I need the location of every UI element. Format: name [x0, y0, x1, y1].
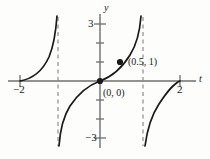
- plot-canvas: [0, 0, 210, 159]
- origin-point-label: (0, 0): [103, 88, 125, 98]
- x-tick-label-2: 2: [177, 84, 183, 95]
- origin-point-marker: [97, 78, 103, 84]
- curve-branch-right: [145, 81, 180, 146]
- y-tick-label-3: 3: [88, 18, 94, 29]
- half-one-point-label: (0.5, 1): [128, 57, 157, 67]
- x-axis-label: t: [199, 74, 202, 84]
- curve-branch-left: [20, 16, 57, 81]
- tangent-function-figure: y t 3 −3 −2 2 (0, 0) (0.5, 1): [0, 0, 210, 159]
- y-tick-label-neg3: −3: [85, 132, 97, 143]
- y-axis-label: y: [104, 3, 108, 13]
- half-one-point-marker: [117, 59, 123, 65]
- x-tick-label-neg2: −2: [13, 84, 25, 95]
